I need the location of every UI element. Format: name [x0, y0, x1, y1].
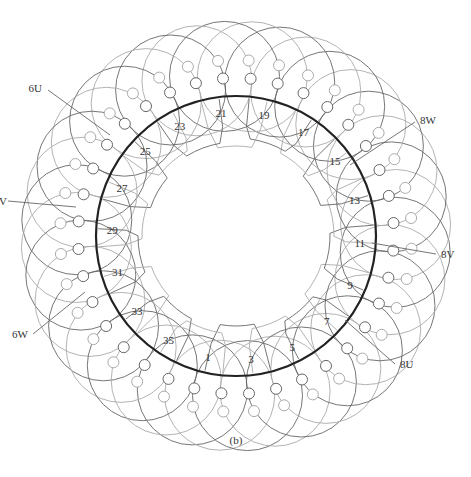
terminal	[60, 188, 71, 199]
slot-label: 15	[330, 155, 342, 167]
terminal	[73, 244, 84, 255]
slot-label: 29	[107, 224, 119, 236]
terminal	[132, 376, 143, 387]
terminal	[244, 388, 255, 399]
terminal	[108, 357, 119, 368]
terminal	[406, 213, 417, 224]
terminal	[360, 141, 371, 152]
terminal	[154, 72, 165, 83]
terminal	[383, 272, 394, 283]
slot-label: 27	[116, 182, 128, 194]
slot-label: 23	[174, 120, 186, 132]
terminal	[119, 118, 130, 129]
terminal	[342, 343, 353, 354]
terminal	[391, 303, 402, 314]
slot-label: 17	[298, 126, 310, 138]
terminal	[72, 307, 83, 318]
slot-label: 5	[290, 341, 296, 353]
terminal	[271, 383, 282, 394]
terminal	[85, 132, 96, 143]
terminal	[213, 55, 224, 66]
terminal	[303, 70, 314, 81]
slot-label: 33	[132, 305, 144, 317]
terminal	[189, 383, 200, 394]
terminal	[343, 119, 354, 130]
terminal	[118, 342, 129, 353]
coil-group	[21, 21, 450, 450]
phase-lead-label: 6W	[12, 328, 29, 340]
slot-label: 9	[347, 279, 353, 291]
terminal	[163, 373, 174, 384]
terminal	[61, 279, 72, 290]
inner-connection	[201, 102, 267, 148]
phase-leads: 6U8W8V8U6WV	[0, 82, 455, 370]
winding-diagram: 1357911131517192123252729313335 6U8W8V8U…	[0, 0, 471, 477]
terminal	[329, 85, 340, 96]
terminal	[297, 374, 308, 385]
phase-lead-label: V	[0, 195, 7, 207]
terminal	[102, 139, 113, 150]
inner-connection	[205, 324, 271, 370]
terminal	[78, 189, 89, 200]
terminal	[70, 159, 81, 170]
terminal	[400, 182, 411, 193]
phase-lead-label: 8V	[441, 248, 455, 260]
terminal	[55, 218, 66, 229]
terminal	[274, 60, 285, 71]
terminal	[88, 334, 99, 345]
terminal	[101, 321, 112, 332]
terminal	[188, 401, 199, 412]
terminal	[322, 102, 333, 113]
terminal	[218, 73, 229, 84]
phase-lead-label: 8W	[420, 114, 437, 126]
slot-label: 31	[112, 266, 123, 278]
terminal	[383, 190, 394, 201]
terminal	[360, 322, 371, 333]
terminal	[298, 88, 309, 99]
phase-lead-label: 8U	[400, 358, 414, 370]
terminal	[334, 373, 345, 384]
terminal	[190, 78, 201, 89]
terminal	[401, 274, 412, 285]
terminal	[218, 406, 229, 417]
lead-line	[8, 201, 76, 207]
lead-line	[372, 243, 436, 254]
slot-label: 1	[205, 351, 211, 363]
terminal	[374, 165, 385, 176]
slot-label: 25	[140, 145, 152, 157]
terminal	[307, 389, 318, 400]
terminal	[279, 400, 290, 411]
terminal	[87, 297, 98, 308]
terminal	[373, 298, 384, 309]
terminal	[73, 216, 84, 227]
terminal	[182, 61, 193, 72]
terminal	[141, 101, 152, 112]
terminal	[88, 163, 99, 174]
terminal	[245, 73, 256, 84]
terminal	[376, 329, 387, 340]
slot-label: 35	[163, 334, 175, 346]
phase-lead-label: 6U	[29, 82, 43, 94]
terminal	[249, 406, 260, 417]
terminal	[104, 108, 115, 119]
terminal	[272, 78, 283, 89]
slot-label: 7	[324, 315, 330, 327]
terminal	[353, 104, 364, 115]
terminal	[127, 88, 138, 99]
terminal	[357, 353, 368, 364]
terminal	[321, 360, 332, 371]
slot-label: 3	[248, 353, 254, 365]
figure-caption: (b)	[230, 434, 243, 447]
slot-label: 13	[349, 194, 361, 206]
slot-label: 21	[215, 107, 226, 119]
terminal	[373, 127, 384, 138]
terminal	[165, 87, 176, 98]
terminal	[78, 271, 89, 282]
terminal	[55, 249, 66, 260]
terminal	[216, 388, 227, 399]
terminal	[159, 391, 170, 402]
slot-label: 19	[258, 109, 270, 121]
terminal	[139, 360, 150, 371]
terminal	[388, 218, 399, 229]
slot-label: 11	[355, 237, 366, 249]
